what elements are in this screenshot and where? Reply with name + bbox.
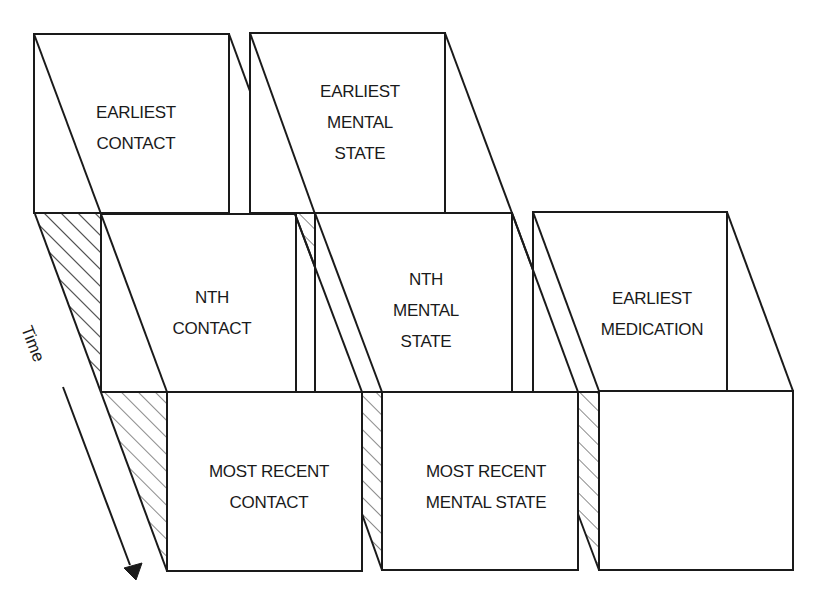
- label-line: NTH: [152, 282, 272, 313]
- time-layered-records-diagram: EARLIEST CONTACT EARLIEST MENTAL STATE N…: [0, 0, 837, 606]
- label-line: MENTAL: [366, 295, 486, 326]
- nth-mental-state-label: NTH MENTAL STATE: [366, 264, 486, 357]
- label-line: CONTACT: [152, 313, 272, 344]
- label-line: STATE: [300, 138, 420, 169]
- label-line: MOST RECENT: [406, 456, 566, 487]
- label-line: EARLIEST: [76, 97, 196, 128]
- most-recent-medication-panel: [599, 391, 793, 570]
- label-line: MEDICATION: [582, 314, 722, 345]
- nth-contact-label: NTH CONTACT: [152, 282, 272, 344]
- most-recent-mental-state-label: MOST RECENT MENTAL STATE: [406, 456, 566, 518]
- label-line: CONTACT: [76, 128, 196, 159]
- earliest-contact-label: EARLIEST CONTACT: [76, 97, 196, 159]
- label-line: MENTAL STATE: [406, 487, 566, 518]
- earliest-mental-state-label: EARLIEST MENTAL STATE: [300, 76, 420, 169]
- label-line: MOST RECENT: [189, 456, 349, 487]
- label-line: EARLIEST: [300, 76, 420, 107]
- label-line: STATE: [366, 326, 486, 357]
- arrowhead-icon: [124, 563, 142, 580]
- earliest-medication-label: EARLIEST MEDICATION: [582, 283, 722, 345]
- most-recent-contact-label: MOST RECENT CONTACT: [189, 456, 349, 518]
- label-line: MENTAL: [300, 107, 420, 138]
- label-line: EARLIEST: [582, 283, 722, 314]
- label-line: NTH: [366, 264, 486, 295]
- label-line: CONTACT: [189, 487, 349, 518]
